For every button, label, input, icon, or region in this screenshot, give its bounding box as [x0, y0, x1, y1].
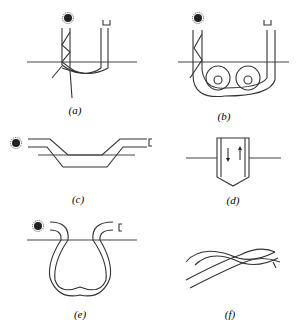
- fiber-1-top: [186, 251, 275, 262]
- escape-ray-1: [52, 66, 62, 78]
- light-source-icon: [34, 222, 42, 230]
- light-source-icon: [194, 14, 202, 22]
- panel-d: [186, 138, 281, 186]
- ray-path: [62, 32, 70, 68]
- panel-f: [186, 249, 280, 288]
- panel-e: [27, 221, 137, 296]
- probe-outer: [217, 138, 249, 186]
- label-c: (c): [72, 193, 85, 206]
- ray-path: [190, 34, 202, 78]
- detector-icon: [149, 139, 152, 146]
- label-a: (a): [69, 104, 82, 117]
- panel-c: [11, 138, 153, 168]
- escape-ray-3: [70, 70, 72, 98]
- light-source-icon: [64, 14, 72, 22]
- loop-1-outer: [206, 66, 230, 90]
- detector-icon: [103, 20, 110, 25]
- light-source-icon: [12, 139, 20, 147]
- label-d: (d): [227, 194, 240, 207]
- label-e: (e): [74, 308, 87, 321]
- diagram-canvas: (a) (b) (c) (d): [0, 0, 296, 329]
- detector-icon: [119, 224, 122, 231]
- label-f: (f): [225, 308, 236, 321]
- detector-icon: [264, 20, 271, 25]
- fiber-outer: [193, 30, 275, 97]
- fiber-end-mark: [273, 262, 276, 268]
- fiber-lower: [28, 147, 147, 167]
- panel-a: [27, 13, 137, 99]
- panel-b: [178, 13, 289, 97]
- fiber-inner: [202, 30, 267, 88]
- label-b: (b): [218, 110, 231, 123]
- loop-1-inner: [214, 76, 222, 84]
- up-arrowhead: [238, 146, 242, 150]
- fiber-inner: [70, 28, 101, 73]
- down-arrowhead: [226, 158, 230, 162]
- loop-2-inner: [244, 76, 252, 84]
- fiber-2-top: [186, 249, 275, 280]
